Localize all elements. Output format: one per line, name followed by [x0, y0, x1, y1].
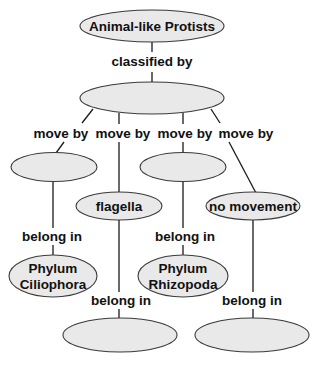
node-phylum2	[63, 318, 177, 352]
link-move-by-2: move by	[96, 126, 151, 141]
link-move-by-1: move by	[34, 126, 89, 141]
edge-moveby4-move4	[229, 142, 256, 193]
node-root-label: Animal-like Protists	[89, 19, 215, 34]
link-move-by-3: move by	[158, 126, 213, 141]
node-phylum1: Phylum Ciliophora	[9, 255, 97, 297]
node-phylum3: Phylum Rhizopoda	[138, 255, 228, 297]
edge-moveby1-move1	[56, 142, 64, 153]
node-phylum1-line1: Phylum	[29, 261, 78, 276]
node-move1	[11, 153, 97, 182]
link-belong-in-2: belong in	[91, 293, 151, 308]
node-classifier	[80, 82, 224, 114]
edge-classifier-moveby1	[82, 109, 93, 123]
concept-map: Animal-like Protists flagella no movemen…	[0, 0, 321, 366]
node-phylum3-line2: Rhizopoda	[149, 277, 218, 292]
node-phylum1-line2: Ciliophora	[20, 277, 87, 292]
node-move4: no movement	[206, 192, 300, 220]
node-phylum3-line1: Phylum	[159, 261, 208, 276]
link-belong-in-1: belong in	[22, 229, 82, 244]
node-move4-label: no movement	[209, 199, 297, 214]
node-move2-label: flagella	[96, 199, 143, 214]
link-classified-by: classified by	[111, 54, 193, 69]
node-move2: flagella	[76, 192, 162, 220]
link-move-by-4: move by	[219, 126, 274, 141]
edge-classifier-moveby4	[211, 109, 220, 123]
node-phylum4	[195, 318, 309, 352]
link-belong-in-4: belong in	[222, 293, 282, 308]
node-root: Animal-like Protists	[80, 10, 224, 42]
node-move3	[140, 153, 226, 182]
link-belong-in-3: belong in	[155, 229, 215, 244]
